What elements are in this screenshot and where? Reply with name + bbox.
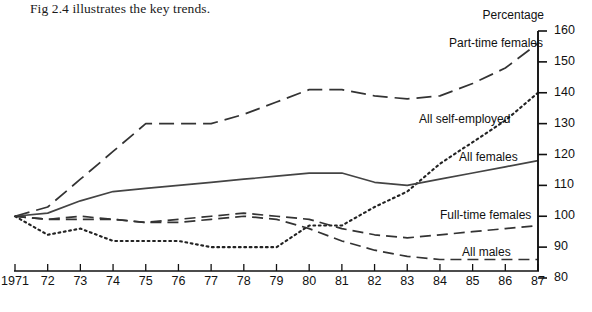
y-tick-label-160: 160 — [554, 23, 575, 37]
y-tick-label-100: 100 — [554, 208, 575, 222]
series-label-part-time-females: Part-time females — [449, 36, 543, 50]
figure-container: Fig 2.4 illustrates the key trends. Perc… — [0, 0, 592, 312]
x-tick-label-87: 87 — [514, 274, 562, 288]
series-line-part-time-females — [15, 43, 538, 216]
series-label-full-time-females: Full-time females — [440, 208, 531, 222]
y-tick-label-140: 140 — [554, 85, 575, 99]
series-line-all-males — [15, 216, 538, 259]
y-tick-label-130: 130 — [554, 116, 575, 130]
y-tick-label-120: 120 — [554, 147, 575, 161]
y-tick-label-90: 90 — [554, 239, 568, 253]
y-tick-label-110: 110 — [554, 177, 574, 191]
series-label-all-females: All females — [459, 150, 518, 164]
series-label-all-males: All males — [462, 245, 511, 259]
y-tick-label-150: 150 — [554, 54, 575, 68]
series-label-all-self-employed: All self-employed — [419, 112, 510, 126]
